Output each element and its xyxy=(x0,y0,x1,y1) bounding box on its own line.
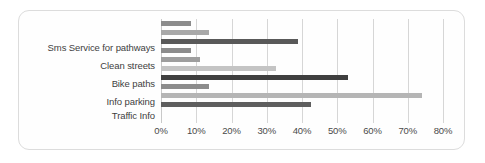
bar xyxy=(161,57,200,62)
bar-fill xyxy=(161,66,276,71)
gridline-60 xyxy=(373,19,374,123)
category-axis-labels: Sms Service for pathwaysClean streetsBik… xyxy=(19,19,155,123)
category-label: Traffic Info xyxy=(112,111,155,121)
gridline-50 xyxy=(337,19,338,123)
gridline-40 xyxy=(302,19,303,123)
bar-fill xyxy=(161,21,191,26)
bar-fill xyxy=(161,39,298,44)
bar-fill xyxy=(161,84,209,89)
bar-fill xyxy=(161,48,191,53)
tick-label-40: 40% xyxy=(293,125,312,136)
gridline-20 xyxy=(232,19,233,123)
tick-label-10: 10% xyxy=(187,125,206,136)
bar xyxy=(161,30,209,35)
bar-fill xyxy=(161,102,311,107)
tick-label-50: 50% xyxy=(328,125,347,136)
chart-frame: Sms Service for pathwaysClean streetsBik… xyxy=(18,10,465,150)
bar xyxy=(161,21,191,26)
bar xyxy=(161,48,191,53)
bar xyxy=(161,66,276,71)
bar-fill xyxy=(161,57,200,62)
category-label: Sms Service for pathways xyxy=(48,43,155,53)
bar xyxy=(161,75,348,80)
category-label: Bike paths xyxy=(112,79,155,89)
bar xyxy=(161,84,209,89)
tick-label-20: 20% xyxy=(222,125,241,136)
category-label: Info parking xyxy=(107,97,155,107)
plot-area xyxy=(161,19,443,123)
category-label: Clean streets xyxy=(100,61,155,71)
gridline-80 xyxy=(443,19,444,123)
bar xyxy=(161,102,311,107)
bar-fill xyxy=(161,30,209,35)
bar xyxy=(161,93,422,98)
bar-fill xyxy=(161,93,422,98)
tick-label-0: 0% xyxy=(154,125,168,136)
tick-label-70: 70% xyxy=(398,125,417,136)
gridline-30 xyxy=(267,19,268,123)
gridline-70 xyxy=(408,19,409,123)
bar-fill xyxy=(161,75,348,80)
tick-label-30: 30% xyxy=(257,125,276,136)
tick-label-60: 60% xyxy=(363,125,382,136)
value-axis-labels: 0%10%20%30%40%50%60%70%80% xyxy=(161,125,443,141)
tick-label-80: 80% xyxy=(434,125,453,136)
bar xyxy=(161,39,298,44)
